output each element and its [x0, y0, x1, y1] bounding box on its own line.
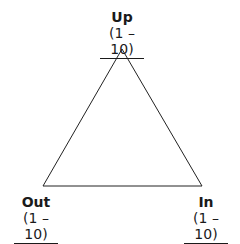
- vertex-top-label: Up: [100, 9, 144, 25]
- vertex-top-range: (1 – 10): [100, 25, 144, 59]
- vertex-bottom-right-range: (1 – 10): [184, 210, 228, 244]
- vertex-bottom-left-range: (1 – 10): [14, 210, 58, 244]
- vertex-bottom-right-label: In: [184, 194, 228, 210]
- triangle-shape: [43, 49, 202, 186]
- vertex-bottom-left-label: Out: [14, 194, 58, 210]
